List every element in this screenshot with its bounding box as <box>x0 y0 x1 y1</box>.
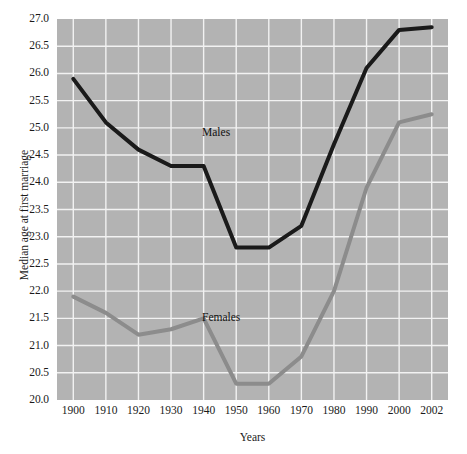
plot-area: Males Females <box>57 19 448 400</box>
plot-svg <box>57 19 448 400</box>
y-axis-tick: 22.5 <box>29 258 49 270</box>
median-age-first-marriage-chart: Median age at first marriage 27.026.526.… <box>0 0 467 454</box>
x-axis-tick: 1940 <box>192 404 215 417</box>
series-line-males <box>73 27 431 247</box>
x-axis-tick: 1910 <box>94 404 117 417</box>
y-axis-tick: 26.0 <box>29 68 49 80</box>
x-axis-tick: 1980 <box>322 404 345 417</box>
y-axis-tick: 21.5 <box>29 313 49 325</box>
y-axis-tick: 24.0 <box>29 177 49 189</box>
y-axis-tick: 25.0 <box>29 122 49 134</box>
y-axis-tick: 25.5 <box>29 95 49 107</box>
y-axis-tick: 20.0 <box>29 394 49 406</box>
y-axis-tick: 23.0 <box>29 231 49 243</box>
x-axis-tick: 1970 <box>290 404 313 417</box>
x-axis-tick-labels: 1900191019201930194019501960197019801990… <box>57 404 448 424</box>
y-axis-tick: 27.0 <box>29 13 49 25</box>
x-axis-tick: 1920 <box>127 404 150 417</box>
series-lines <box>73 27 431 384</box>
y-axis-tick-labels: 27.026.526.025.525.024.524.023.523.022.5… <box>0 0 57 454</box>
series-label-females: Females <box>202 311 240 323</box>
x-axis-tick: 1930 <box>160 404 183 417</box>
y-axis-tick: 22.0 <box>29 285 49 297</box>
y-axis-tick: 21.0 <box>29 340 49 352</box>
x-axis-tick: 1950 <box>225 404 248 417</box>
gridlines <box>57 19 448 400</box>
x-axis-tick: 2000 <box>388 404 411 417</box>
x-axis-tick: 1900 <box>62 404 85 417</box>
x-axis-tick: 1960 <box>257 404 280 417</box>
series-label-males: Males <box>202 126 230 138</box>
x-axis-tick: 1990 <box>355 404 378 417</box>
x-axis-title: Years <box>57 431 448 443</box>
y-axis-tick: 26.5 <box>29 40 49 52</box>
y-axis-tick: 23.5 <box>29 204 49 216</box>
x-axis-tick: 2002 <box>420 404 443 417</box>
y-axis-tick: 20.5 <box>29 367 49 379</box>
y-axis-tick: 24.5 <box>29 149 49 161</box>
